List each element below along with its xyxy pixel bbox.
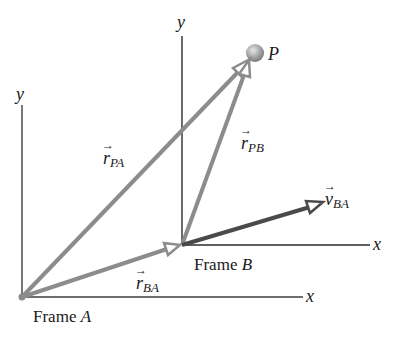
svg-text:rPB: rPB (241, 133, 264, 155)
frame-a-x-label: x (305, 286, 314, 306)
frame-a-label: Frame A (33, 307, 92, 326)
point-p-label: P (267, 44, 279, 64)
vector-r-ba-label: → rBA (135, 263, 159, 295)
frame-a-axes (19, 105, 304, 301)
vector-r-pb-arrow (182, 60, 250, 245)
vector-v-ba-label: → vBA (324, 179, 349, 211)
vector-r-pb-label: → rPB (240, 123, 264, 155)
frame-b-x-label: x (372, 234, 381, 254)
frame-a-y-label: y (14, 84, 24, 104)
frame-b-label: Frame B (194, 255, 253, 274)
svg-text:rBA: rBA (136, 273, 159, 295)
svg-text:vBA: vBA (325, 189, 349, 211)
relative-motion-diagram: y x y x P Frame A Frame B → rPA → rPB → … (0, 0, 398, 342)
vector-r-pa-label: → rPA (102, 138, 124, 170)
frame-b-axes (182, 36, 370, 245)
frame-b-y-label: y (175, 12, 185, 32)
vector-v-ba-arrow (182, 201, 323, 245)
